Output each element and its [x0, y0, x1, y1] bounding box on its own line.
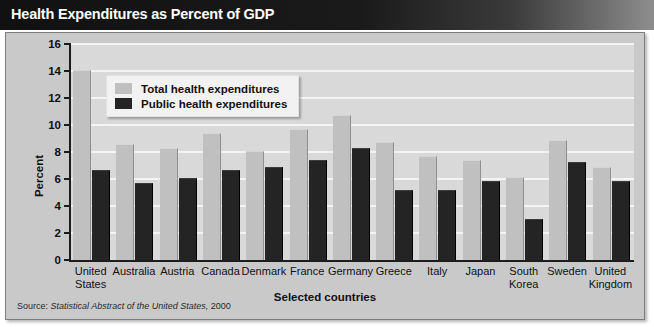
bar-public — [568, 162, 586, 260]
legend-item-public: Public health expenditures — [115, 96, 287, 111]
bar-total — [160, 148, 178, 260]
bar-total — [593, 167, 611, 260]
legend-swatch-public-icon — [115, 98, 132, 109]
bar-group — [591, 44, 634, 260]
bar-group — [417, 44, 460, 260]
y-tick-mark — [64, 70, 71, 72]
y-tick-label: 14 — [48, 65, 61, 77]
y-tick-mark — [64, 259, 71, 261]
bar-group — [461, 44, 504, 260]
x-tick-label-line: States — [58, 278, 124, 291]
y-axis-title: Percent — [33, 155, 45, 197]
y-tick-mark — [64, 232, 71, 234]
y-tick-mark — [64, 97, 71, 99]
bar-total — [419, 156, 437, 260]
page-title: Health Expenditures as Percent of GDP — [11, 6, 274, 22]
y-tick-label: 10 — [48, 119, 61, 131]
bar-group — [331, 44, 374, 260]
bar-group — [374, 44, 417, 260]
bar-total — [203, 133, 221, 260]
bar-public — [179, 178, 197, 260]
y-tick-label: 2 — [55, 227, 61, 239]
legend-swatch-total-icon — [115, 83, 132, 94]
source-label: Source: — [17, 301, 48, 311]
x-tick-label-line: Korea — [491, 278, 557, 291]
bar-public — [525, 219, 543, 261]
bar-public — [265, 167, 283, 260]
bar-total — [506, 177, 524, 260]
y-tick-mark — [64, 205, 71, 207]
legend-item-total: Total health expenditures — [115, 81, 287, 96]
x-tick-label-line: Kingdom — [577, 278, 643, 291]
legend-label-public: Public health expenditures — [141, 98, 287, 110]
bar-public — [438, 190, 456, 260]
bar-group — [504, 44, 547, 260]
bar-total — [116, 144, 134, 260]
bar-public — [395, 190, 413, 260]
bar-total — [73, 70, 91, 260]
bar-total — [290, 129, 308, 260]
bar-total — [463, 160, 481, 260]
legend-label-total: Total health expenditures — [141, 83, 279, 95]
bar-total — [376, 142, 394, 260]
bar-public — [135, 183, 153, 260]
y-tick-mark — [64, 124, 71, 126]
bar-total — [549, 140, 567, 260]
x-tick-label: UnitedKingdom — [577, 265, 643, 290]
bar-public — [482, 181, 500, 260]
y-tick-mark — [64, 43, 71, 45]
bar-public — [92, 170, 110, 260]
y-tick-label: 8 — [55, 146, 61, 158]
bar-total — [333, 115, 351, 260]
y-tick-label: 4 — [55, 200, 61, 212]
source-title: Statistical Abstract of the United State… — [51, 301, 209, 311]
chart-figure: Health Expenditures as Percent of GDP Pe… — [0, 0, 654, 327]
y-tick-label: 12 — [48, 92, 61, 104]
bar-public — [222, 170, 240, 260]
bar-public — [612, 181, 630, 260]
y-tick-mark — [64, 151, 71, 153]
y-tick-mark — [64, 178, 71, 180]
source-year: 2000 — [211, 301, 231, 311]
bar-group — [547, 44, 590, 260]
bar-public — [352, 148, 370, 260]
title-bar: Health Expenditures as Percent of GDP — [0, 0, 654, 30]
source-note: Source: Statistical Abstract of the Unit… — [17, 301, 231, 311]
chart-legend: Total health expenditures Public health … — [106, 75, 299, 117]
y-tick-label: 16 — [48, 38, 61, 50]
bar-public — [309, 160, 327, 260]
x-tick-label-line: United — [577, 265, 643, 278]
y-tick-label: 6 — [55, 173, 61, 185]
bar-total — [246, 151, 264, 260]
chart-panel: Percent 0246810121416 UnitedStatesAustra… — [5, 32, 645, 320]
